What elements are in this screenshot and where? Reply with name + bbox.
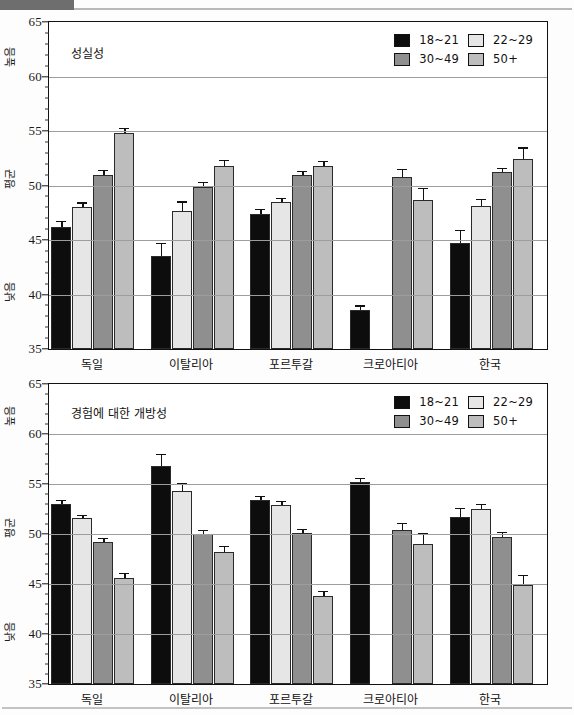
y-axis-tick-mark: [42, 21, 49, 22]
bar: [214, 166, 234, 349]
error-bar-cap: [297, 529, 307, 530]
y-axis-band-low: 낮음: [1, 282, 17, 302]
y-axis-minor-tick: [45, 504, 49, 505]
error-bar-stem: [161, 243, 162, 257]
y-axis-tick-label: 65: [29, 14, 42, 30]
error-bar-cap: [156, 454, 166, 455]
y-axis-minor-tick: [45, 152, 49, 153]
y-axis-minor-tick: [45, 54, 49, 55]
y-axis-minor-tick: [45, 474, 49, 475]
y-axis-minor-tick: [45, 604, 49, 605]
y-axis-tick-label: 40: [29, 626, 42, 642]
error-bar-cap: [276, 501, 286, 502]
y-axis-tick-mark: [42, 633, 49, 634]
gridline: [49, 634, 547, 635]
page-top-rule: [74, 8, 572, 10]
y-axis-minor-tick: [45, 644, 49, 645]
x-axis-category-label: 독일: [81, 355, 103, 372]
x-axis-category-label: 이탈리아: [169, 690, 213, 707]
x-axis-category-label: 한국: [479, 690, 501, 707]
error-bar-stem: [460, 230, 461, 244]
x-axis-category-label: 포르투갈: [269, 355, 313, 372]
y-axis-tick-label: 35: [29, 676, 42, 692]
y-axis-tick-mark: [42, 130, 49, 131]
bar: [513, 159, 533, 349]
plot-area-2: 경험에 대한 개방성 18~2122~2930~4950+ 3540455055…: [48, 383, 548, 685]
y-axis-minor-tick: [45, 163, 49, 164]
error-bar-cap: [455, 508, 465, 509]
y-axis-minor-tick: [45, 229, 49, 230]
y-axis-minor-tick: [45, 554, 49, 555]
error-bar-stem: [182, 201, 183, 210]
y-axis-tick-label: 45: [29, 576, 42, 592]
bar: [214, 552, 234, 684]
error-bar-cap: [219, 546, 229, 547]
bar: [313, 596, 333, 685]
gridline: [49, 584, 547, 585]
chart-panel-conscientiousness: 성실성 18~2122~2930~4950+ 35404550556065높음평…: [0, 14, 574, 366]
y-axis-tick-mark: [42, 239, 49, 240]
y-axis-band-mid: 평균: [1, 518, 17, 538]
error-bar-cap: [397, 523, 407, 524]
error-bar-cap: [119, 573, 129, 574]
y-axis-minor-tick: [45, 120, 49, 121]
y-axis-tick-mark: [42, 76, 49, 77]
y-axis-minor-tick: [45, 109, 49, 110]
y-axis-tick-mark: [42, 483, 49, 484]
y-axis-minor-tick: [45, 327, 49, 328]
bar: [250, 214, 270, 349]
x-axis-category-label: 이탈리아: [169, 355, 213, 372]
y-axis-tick-mark: [42, 433, 49, 434]
x-axis-category-label: 독일: [81, 690, 103, 707]
error-bar-cap: [255, 209, 265, 210]
y-axis-tick-label: 65: [29, 376, 42, 392]
scan-artifact-corner: [0, 0, 74, 10]
bar: [492, 172, 512, 349]
y-axis-tick-mark: [42, 683, 49, 684]
y-axis-tick-label: 35: [29, 341, 42, 357]
bar: [492, 537, 512, 684]
y-axis-minor-tick: [45, 207, 49, 208]
y-axis-tick-label: 60: [29, 69, 42, 85]
bar: [292, 175, 312, 349]
error-bar-stem: [423, 188, 424, 200]
y-axis-minor-tick: [45, 524, 49, 525]
y-axis-minor-tick: [45, 624, 49, 625]
y-axis-minor-tick: [45, 65, 49, 66]
y-axis-minor-tick: [45, 394, 49, 395]
error-bar-cap: [198, 530, 208, 531]
bar: [350, 310, 370, 349]
gridline: [49, 186, 547, 187]
bar: [51, 504, 71, 684]
y-axis-minor-tick: [45, 414, 49, 415]
x-axis-category-label: 포르투갈: [269, 690, 313, 707]
y-axis-minor-tick: [45, 404, 49, 405]
y-axis-minor-tick: [45, 654, 49, 655]
y-axis-tick-mark: [42, 294, 49, 295]
y-axis-tick-label: 50: [29, 526, 42, 542]
y-axis-tick-mark: [42, 348, 49, 349]
x-axis-category-label: 크로아티아: [363, 690, 418, 707]
y-axis-band-high: 높음: [1, 47, 17, 67]
y-axis-minor-tick: [45, 564, 49, 565]
bar: [193, 187, 213, 349]
bar: [313, 166, 333, 349]
y-axis-minor-tick: [45, 514, 49, 515]
bar: [93, 175, 113, 349]
bar: [172, 491, 192, 684]
gridline: [49, 240, 547, 241]
bar: [450, 517, 470, 684]
x-axis-category-label: 한국: [479, 355, 501, 372]
gridline: [49, 534, 547, 535]
y-axis-minor-tick: [45, 464, 49, 465]
error-bar-cap: [255, 496, 265, 497]
bar: [471, 206, 491, 349]
y-axis-minor-tick: [45, 272, 49, 273]
y-axis-minor-tick: [45, 250, 49, 251]
bar: [93, 542, 113, 684]
y-axis-minor-tick: [45, 43, 49, 44]
bar: [250, 500, 270, 684]
error-bar-cap: [297, 171, 307, 172]
y-axis-minor-tick: [45, 32, 49, 33]
page-bottom-rule: [2, 707, 572, 709]
